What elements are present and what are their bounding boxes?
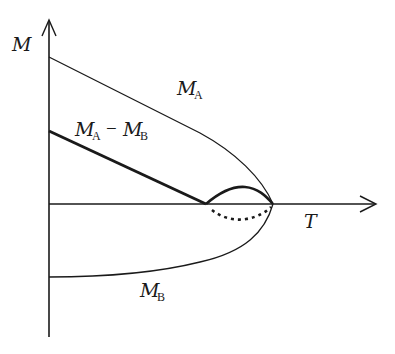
label-ma: M A	[176, 77, 203, 102]
svg-text:A: A	[194, 88, 203, 102]
m-axis-label: M	[11, 33, 32, 55]
svg-text:A: A	[92, 129, 101, 143]
curve-ma-minus-mb-dotted	[212, 207, 271, 220]
label-ma-minus-mb: M A − M B	[74, 118, 148, 143]
svg-text:B: B	[140, 129, 148, 143]
t-axis-label: T	[304, 210, 318, 232]
curve-mb	[49, 204, 273, 277]
curve-ma-minus-mb-bump	[206, 187, 273, 204]
svg-text:−: −	[106, 118, 117, 139]
svg-text:B: B	[157, 290, 165, 304]
diagram-canvas: M T M A M A − M B M B	[0, 0, 395, 354]
label-mb: M B	[139, 279, 165, 304]
curve-ma-minus-mb	[49, 131, 206, 204]
